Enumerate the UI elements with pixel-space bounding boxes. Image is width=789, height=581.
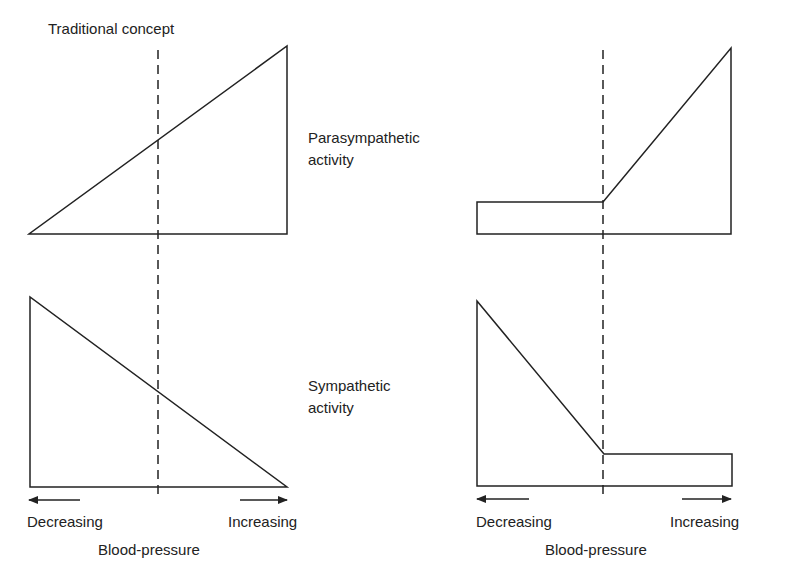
increasing-label-left: Increasing — [228, 512, 297, 531]
revised-parasympathetic-shape — [477, 48, 731, 234]
decreasing-label-left: Decreasing — [27, 512, 103, 531]
blood-pressure-label-right: Blood-pressure — [545, 540, 647, 559]
parasympathetic-label-line2: activity — [308, 150, 354, 169]
diagram-canvas — [0, 0, 789, 581]
sympathetic-label-line2: activity — [308, 398, 354, 417]
revised-sympathetic-shape — [477, 301, 732, 486]
figure-title: Traditional concept — [48, 19, 174, 38]
decreasing-label-right: Decreasing — [476, 512, 552, 531]
increasing-label-right: Increasing — [670, 512, 739, 531]
blood-pressure-label-left: Blood-pressure — [98, 540, 200, 559]
parasympathetic-label-line1: Parasympathetic — [308, 128, 420, 147]
sympathetic-label-line1: Sympathetic — [308, 376, 391, 395]
